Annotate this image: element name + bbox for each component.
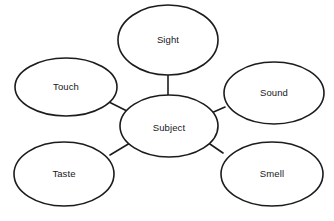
node-smell[interactable]: Smell — [221, 142, 323, 206]
node-sight-label: Sight — [157, 34, 179, 45]
node-taste-label: Taste — [52, 168, 75, 179]
node-sound-label: Sound — [260, 87, 288, 98]
node-sound[interactable]: Sound — [224, 62, 324, 124]
node-subject-label: Subject — [153, 122, 186, 133]
node-smell-label: Smell — [260, 168, 284, 179]
connector-taste-subject — [110, 143, 130, 155]
node-touch[interactable]: Touch — [15, 58, 117, 116]
node-sight[interactable]: Sight — [118, 5, 218, 75]
node-subject[interactable]: Subject — [120, 95, 218, 157]
concept-map-diagram: Sight Touch Sound Taste Smell Subject — [0, 0, 334, 221]
node-taste[interactable]: Taste — [14, 142, 114, 206]
node-touch-label: Touch — [53, 81, 79, 92]
diagram-canvas: Sight Touch Sound Taste Smell Subject — [0, 0, 334, 221]
